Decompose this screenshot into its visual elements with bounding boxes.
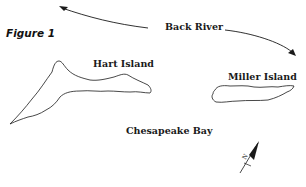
label-back-river: Back River (165, 21, 223, 32)
label-chesapeake-bay: Chesapeake Bay (126, 125, 213, 136)
label-miller-island: Miller Island (228, 71, 297, 82)
label-hart-island: Hart Island (93, 58, 154, 69)
hart-island-outline (10, 61, 151, 124)
river-arrow-left (59, 6, 148, 28)
miller-island-outline (212, 86, 294, 103)
river-arrow-right (225, 30, 296, 56)
figure-title: Figure 1 (6, 27, 55, 39)
